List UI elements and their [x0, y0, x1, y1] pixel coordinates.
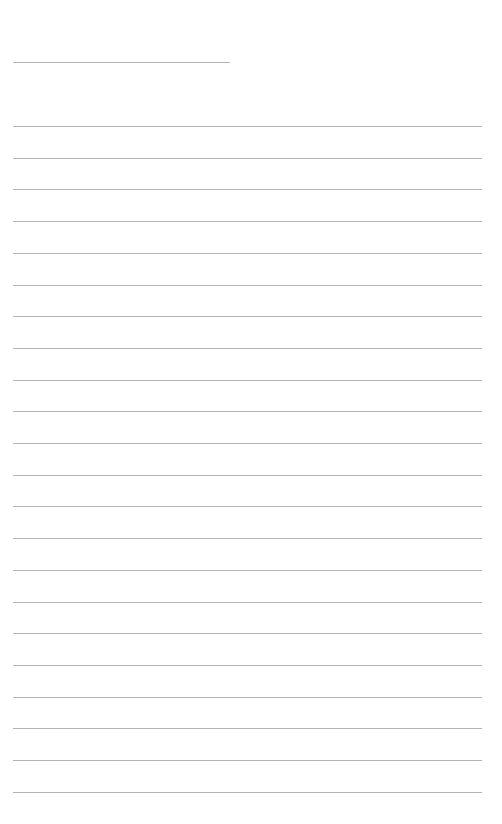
ruled-line — [13, 792, 482, 793]
ruled-line — [13, 285, 482, 286]
ruled-line — [13, 570, 482, 571]
ruled-line — [13, 411, 482, 412]
ruled-line — [13, 443, 482, 444]
ruled-line — [13, 538, 482, 539]
ruled-line — [13, 633, 482, 634]
ruled-line — [13, 697, 482, 698]
ruled-line — [13, 602, 482, 603]
ruled-line — [13, 126, 482, 127]
ruled-line — [13, 221, 482, 222]
ruled-line — [13, 760, 482, 761]
ruled-line — [13, 348, 482, 349]
ruled-line — [13, 189, 482, 190]
ruled-line — [13, 316, 482, 317]
ruled-line — [13, 380, 482, 381]
ruled-line — [13, 253, 482, 254]
ruled-line — [13, 506, 482, 507]
ruled-line — [13, 728, 482, 729]
header-name-line — [13, 62, 230, 63]
ruled-line — [13, 158, 482, 159]
ruled-line — [13, 665, 482, 666]
ruled-line — [13, 475, 482, 476]
